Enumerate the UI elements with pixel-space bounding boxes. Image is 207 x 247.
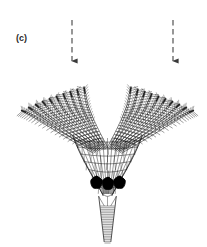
calyx-black-plate [114,176,126,188]
arm-pinnule [189,112,194,117]
arm-pinnule [44,101,51,102]
arm-pinnule [156,132,160,135]
arm-pinnule-inner [33,106,34,111]
arm-pinnule [174,120,180,124]
calyx-plate-suture-short [97,148,98,155]
arm-pinnule-inner [179,108,180,113]
arm-pinnule [167,125,172,128]
black-plates-group [91,176,126,189]
arm-pinnule [165,100,172,101]
arm-pinnule-inner [68,102,70,107]
arm-pinnule-inner [76,103,78,108]
stem-outline-right [111,196,116,242]
arm-pinnule [160,129,164,132]
arm-pinnule [40,107,47,109]
arm-pinnule [47,127,52,130]
stem-outline-left [99,196,104,242]
calyx-black-plate [102,177,114,189]
arm-pinnule [36,102,43,104]
arm-pinnule [43,100,50,101]
crinoid-line-drawing [0,0,207,247]
arm-pinnule [35,120,41,124]
arm-pinnule [39,122,44,126]
calyx-black-plate [91,176,103,188]
arm-pinnule [171,104,178,106]
arm-pinnule [20,112,25,117]
arm-pinnule [25,109,31,113]
arm-tip [143,91,145,97]
arm-pinnule-inner [181,106,182,111]
arm-pinnule [55,132,59,135]
arm-pinnule-inner [35,108,36,113]
arm-pinnule [22,113,28,118]
arm-pinnule-inner [60,98,62,103]
calyx-plate-suture-short [106,142,107,148]
arm-pinnule [51,129,55,132]
arm-pinnule [187,113,193,118]
arm-pinnule-inner [138,103,140,108]
arm-pinnule [43,125,48,128]
arm-pinnule-inner [145,102,147,107]
stem-group [99,196,117,243]
arm-pinnule-inner [177,109,178,114]
arm-pinnule [37,104,44,106]
arm-pinnule [38,105,45,107]
calyx-plate-suture-short [103,187,104,194]
arm-pinnule [172,102,179,104]
figure-panel: (c) [0,0,207,247]
arm-pinnule-inner [154,98,156,103]
arm-pinnule [164,101,171,102]
flow-arrows-group [72,20,173,61]
arm-pinnule [171,122,176,126]
arm-pinnule-inner [37,109,38,114]
arm-pinnule [163,127,168,130]
arm-tip [70,91,72,97]
